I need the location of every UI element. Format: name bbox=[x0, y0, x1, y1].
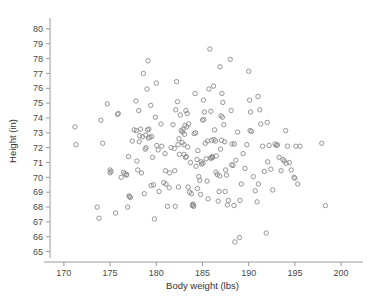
data-point bbox=[220, 91, 224, 95]
data-point bbox=[264, 231, 268, 235]
data-point bbox=[259, 122, 263, 126]
data-point bbox=[141, 71, 145, 75]
x-tick-label: 185 bbox=[195, 268, 210, 278]
data-point bbox=[256, 94, 260, 98]
data-point bbox=[119, 175, 123, 179]
data-point bbox=[125, 205, 129, 209]
data-point bbox=[137, 140, 141, 144]
data-point bbox=[163, 151, 167, 155]
data-point bbox=[269, 167, 273, 171]
y-tick-label: 77 bbox=[33, 69, 43, 79]
x-tick-label: 190 bbox=[241, 268, 256, 278]
data-point bbox=[142, 192, 146, 196]
data-point bbox=[226, 198, 230, 202]
y-tick-label: 79 bbox=[33, 39, 43, 49]
data-point bbox=[195, 157, 199, 161]
data-point bbox=[157, 189, 161, 193]
data-point bbox=[217, 189, 221, 193]
data-point bbox=[238, 198, 242, 202]
data-point bbox=[153, 115, 157, 119]
y-tick-label: 76 bbox=[33, 83, 43, 93]
data-point bbox=[130, 139, 134, 143]
data-point bbox=[212, 128, 216, 132]
data-point bbox=[267, 143, 271, 147]
data-point bbox=[260, 144, 264, 148]
y-tick-label: 67 bbox=[33, 217, 43, 227]
data-point bbox=[173, 168, 177, 172]
y-tick-label: 73 bbox=[33, 128, 43, 138]
data-points bbox=[73, 47, 328, 244]
data-point bbox=[171, 122, 175, 126]
data-point bbox=[193, 131, 197, 135]
data-point bbox=[228, 57, 232, 61]
data-point bbox=[209, 109, 213, 113]
data-point bbox=[186, 145, 190, 149]
x-tick-label: 170 bbox=[56, 268, 71, 278]
data-point bbox=[139, 171, 143, 175]
data-point bbox=[248, 110, 252, 114]
data-point bbox=[99, 118, 103, 122]
data-point bbox=[159, 122, 163, 126]
data-point bbox=[243, 166, 247, 170]
y-axis-title: Height (in) bbox=[7, 119, 18, 163]
plot-canvas: 6566676869707172737475767778798017017518… bbox=[0, 0, 369, 307]
data-point bbox=[134, 99, 138, 103]
data-point bbox=[175, 99, 179, 103]
x-tick-label: 195 bbox=[287, 268, 302, 278]
data-point bbox=[283, 128, 287, 132]
data-point bbox=[154, 81, 158, 85]
y-tick-label: 74 bbox=[33, 113, 43, 123]
data-point bbox=[174, 108, 178, 112]
data-point bbox=[207, 87, 211, 91]
data-point bbox=[135, 159, 139, 163]
data-point bbox=[218, 65, 222, 69]
data-point bbox=[271, 188, 275, 192]
data-point bbox=[241, 151, 245, 155]
y-tick-label: 71 bbox=[33, 158, 43, 168]
data-point bbox=[74, 143, 78, 147]
data-point bbox=[73, 125, 77, 129]
data-point bbox=[221, 100, 225, 104]
data-point bbox=[198, 192, 202, 196]
data-point bbox=[176, 185, 180, 189]
data-point bbox=[156, 148, 160, 152]
data-point bbox=[188, 160, 192, 164]
data-point bbox=[251, 174, 255, 178]
data-point bbox=[167, 186, 171, 190]
data-point bbox=[279, 168, 283, 172]
data-point bbox=[202, 110, 206, 114]
data-point bbox=[211, 84, 215, 88]
data-point bbox=[100, 141, 104, 145]
data-point bbox=[145, 87, 149, 91]
y-tick-label: 80 bbox=[33, 24, 43, 34]
data-point bbox=[235, 130, 239, 134]
data-point bbox=[137, 108, 141, 112]
data-point bbox=[150, 155, 154, 159]
y-tick-label: 72 bbox=[33, 143, 43, 153]
data-point bbox=[195, 186, 199, 190]
data-point bbox=[229, 163, 233, 167]
data-point bbox=[95, 205, 99, 209]
data-point bbox=[174, 79, 178, 83]
y-tick-label: 70 bbox=[33, 173, 43, 183]
data-point bbox=[186, 185, 190, 189]
data-point bbox=[163, 168, 167, 172]
data-point bbox=[177, 137, 181, 141]
data-point bbox=[146, 59, 150, 63]
data-point bbox=[285, 144, 289, 148]
y-tick-label: 75 bbox=[33, 98, 43, 108]
data-point bbox=[167, 171, 171, 175]
data-point bbox=[152, 217, 156, 221]
data-point bbox=[126, 154, 130, 158]
data-point bbox=[201, 98, 205, 102]
scatter-plot-figure: 6566676869707172737475767778798017017518… bbox=[0, 0, 369, 307]
data-point bbox=[233, 240, 237, 244]
x-tick-label: 200 bbox=[334, 268, 349, 278]
x-tick-label: 175 bbox=[103, 268, 118, 278]
x-tick-label: 180 bbox=[149, 268, 164, 278]
data-point bbox=[232, 203, 236, 207]
y-tick-label: 68 bbox=[33, 202, 43, 212]
data-point bbox=[245, 143, 249, 147]
data-point bbox=[223, 168, 227, 172]
data-point bbox=[239, 182, 243, 186]
